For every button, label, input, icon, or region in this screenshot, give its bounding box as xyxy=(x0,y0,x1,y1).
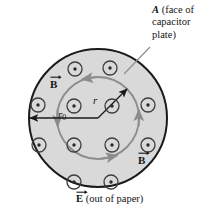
r-label: r xyxy=(93,94,97,106)
e-field-caption-text: (out of paper) xyxy=(83,193,143,204)
b-field-label-bottom: B xyxy=(138,154,145,166)
e-field-caption-symbol: E xyxy=(76,193,83,204)
figure-canvas: A (face of capacitor plate) B B r0 r E xyxy=(0,0,216,217)
b-field-label-top-text: B xyxy=(50,78,57,90)
e-field-caption: E (out of paper) xyxy=(76,193,143,205)
r0-label: r0 xyxy=(58,108,66,123)
r0-label-subscript: 0 xyxy=(62,113,66,122)
callout-text: (face of capacitor plate) xyxy=(152,4,194,40)
b-field-label-bottom-text: B xyxy=(138,154,145,166)
plate-face-callout: A (face of capacitor plate) xyxy=(152,4,214,41)
b-field-label-top: B xyxy=(50,78,57,90)
callout-symbol-A: A xyxy=(152,4,159,15)
